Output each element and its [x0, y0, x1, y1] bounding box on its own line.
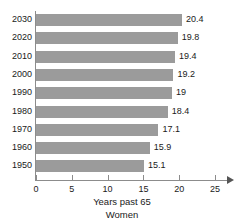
- x-axis-label: Years past 65: [0, 196, 244, 207]
- category-label: 2000: [0, 68, 32, 81]
- bar: [36, 14, 182, 26]
- bar-value-label: 20.4: [186, 13, 204, 26]
- category-label: 1960: [0, 141, 32, 154]
- category-label: 2020: [0, 31, 32, 44]
- bar-row: 202019.8: [0, 29, 244, 47]
- bar-value-label: 19.2: [177, 68, 195, 81]
- category-label: 1950: [0, 159, 32, 172]
- bar-value-label: 18.4: [172, 105, 190, 118]
- x-axis-tick-label: 5: [69, 183, 74, 195]
- x-axis-tick: [108, 175, 109, 180]
- bar-row: 198018.4: [0, 103, 244, 121]
- chart-subtitle: Women: [0, 209, 244, 220]
- bar-row: 199019: [0, 84, 244, 102]
- bar: [36, 51, 175, 63]
- bar-value-label: 15.9: [154, 141, 172, 154]
- x-axis-tick-label: 25: [210, 183, 220, 195]
- bar: [36, 106, 168, 118]
- category-label: 1980: [0, 105, 32, 118]
- bar-chart: 203020.4202019.8201019.4200019.219901919…: [0, 0, 244, 223]
- x-axis-tick-label: 20: [174, 183, 184, 195]
- x-axis-tick: [179, 175, 180, 180]
- bar: [36, 32, 178, 44]
- x-axis-tick-label: 0: [33, 183, 38, 195]
- bar-value-label: 19: [176, 86, 186, 99]
- category-label: 1990: [0, 86, 32, 99]
- x-axis-tick-label: 15: [138, 183, 148, 195]
- bar: [36, 160, 144, 172]
- x-axis-tick: [215, 175, 216, 180]
- x-axis-tick: [36, 175, 37, 180]
- category-label: 2010: [0, 50, 32, 63]
- bar-value-label: 17.1: [162, 123, 180, 136]
- value-axis-arrow-icon: [227, 176, 234, 184]
- value-axis-line: [35, 180, 229, 181]
- bar-row: 195015.1: [0, 157, 244, 175]
- bar-row: 197017.1: [0, 121, 244, 139]
- x-axis-tick-label: 10: [103, 183, 113, 195]
- bar: [36, 69, 173, 81]
- bar-row: 196015.9: [0, 139, 244, 157]
- plot-area: 203020.4202019.8201019.4200019.219901919…: [0, 0, 244, 223]
- bar: [36, 124, 158, 136]
- bar-row: 201019.4: [0, 48, 244, 66]
- bar-value-label: 19.4: [179, 50, 197, 63]
- x-axis-tick: [72, 175, 73, 180]
- bar-row: 200019.2: [0, 66, 244, 84]
- bar-row: 203020.4: [0, 11, 244, 29]
- x-axis-tick: [143, 175, 144, 180]
- bar-value-label: 15.1: [148, 159, 166, 172]
- bar-value-label: 19.8: [182, 31, 200, 44]
- bar: [36, 87, 172, 99]
- category-label: 1970: [0, 123, 32, 136]
- category-label: 2030: [0, 13, 32, 26]
- bar: [36, 142, 150, 154]
